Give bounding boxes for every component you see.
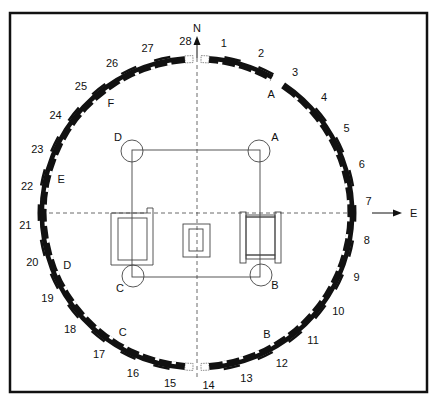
stone-number-label: 20 <box>26 256 38 268</box>
central-square <box>132 150 260 277</box>
central-chamber <box>183 224 210 257</box>
stone-number-label: 22 <box>21 180 33 192</box>
gap-letter-label: C <box>119 326 127 338</box>
post-label: B <box>271 279 278 291</box>
stone-number-label: 17 <box>93 348 105 360</box>
stone-number-label: 5 <box>344 122 350 134</box>
stone-number-label: 8 <box>364 234 370 246</box>
north-arrow-icon <box>194 36 201 58</box>
post-label: D <box>114 131 122 143</box>
ring-segment <box>44 222 47 226</box>
stone-number-label: 1 <box>221 37 227 49</box>
ring-segment <box>44 205 47 209</box>
ring-segment <box>347 217 350 221</box>
stone-number-label: 6 <box>359 158 365 170</box>
diagram-frame <box>10 13 427 392</box>
ruined-stone <box>201 363 209 370</box>
stone-number-label: 11 <box>307 334 318 346</box>
ring-segment <box>354 205 357 222</box>
east-chamber <box>240 212 281 263</box>
post-hole-c <box>122 265 144 287</box>
stone-number-label: 7 <box>366 195 372 207</box>
stone-number-label: 23 <box>31 143 43 155</box>
stone-number-label: 27 <box>141 42 153 54</box>
stone-number-label: 3 <box>292 66 298 78</box>
ruined-stone <box>201 56 209 63</box>
stone-number-label: 24 <box>49 109 61 121</box>
gap-letter-label: F <box>107 97 114 109</box>
east-arrow-icon <box>372 210 402 217</box>
gap-letter-label: B <box>263 328 270 340</box>
ring-segment <box>38 204 41 221</box>
stone-number-label: 10 <box>332 305 344 317</box>
north-label: N <box>193 22 201 34</box>
central-structure: DACB <box>111 131 281 294</box>
ruined-stone <box>185 363 193 370</box>
stone-number-label: 21 <box>19 219 31 231</box>
ruined-stone <box>185 56 193 63</box>
gap-letter-labels: AFEDCB <box>57 88 275 340</box>
stone-number-label: 13 <box>240 372 252 384</box>
post-label: C <box>116 282 124 294</box>
stone-number-label: 19 <box>41 292 53 304</box>
stone-number-label: 28 <box>179 35 191 47</box>
stone-number-label: 2 <box>258 47 264 59</box>
stone-number-label: 4 <box>321 91 327 103</box>
ring-segment <box>346 200 349 204</box>
stone-number-label: 15 <box>164 377 176 389</box>
gap-letter-label: E <box>57 173 64 185</box>
east-label: E <box>410 207 417 219</box>
ring-segment <box>209 82 355 370</box>
stone-circle-diagram: N E 123456789101112131415161718192021222… <box>0 0 439 399</box>
stone-number-label: 18 <box>64 323 76 335</box>
stone-number-label: 12 <box>276 357 288 369</box>
gap-letter-label: A <box>268 88 276 100</box>
gap-letter-label: D <box>63 259 71 271</box>
post-hole-a <box>248 140 270 162</box>
stone-number-label: 14 <box>202 379 214 391</box>
post-label: A <box>271 131 279 143</box>
post-hole-b <box>250 264 272 286</box>
stone-number-label: 16 <box>127 367 139 379</box>
stone-number-label: 26 <box>106 57 118 69</box>
stone-number-label: 9 <box>354 271 360 283</box>
stone-number-label: 25 <box>75 80 87 92</box>
